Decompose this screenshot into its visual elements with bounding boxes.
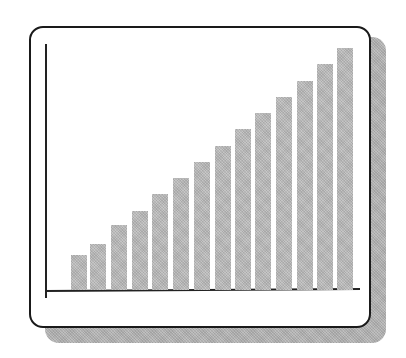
bar-6: [173, 178, 189, 290]
bar-12: [297, 81, 313, 290]
bar-14: [337, 48, 353, 290]
y-axis: [45, 44, 47, 298]
bar-11: [276, 97, 292, 290]
bar-8: [215, 146, 231, 290]
bar-10: [255, 113, 271, 290]
bar-4: [132, 211, 148, 290]
bar-3: [111, 225, 127, 290]
bar-7: [194, 162, 210, 290]
bar-13: [317, 64, 333, 290]
bar-5: [152, 194, 168, 290]
bar-2: [90, 244, 106, 290]
bar-1: [71, 255, 87, 290]
plot-area: [0, 0, 406, 358]
bar-9: [235, 129, 251, 290]
